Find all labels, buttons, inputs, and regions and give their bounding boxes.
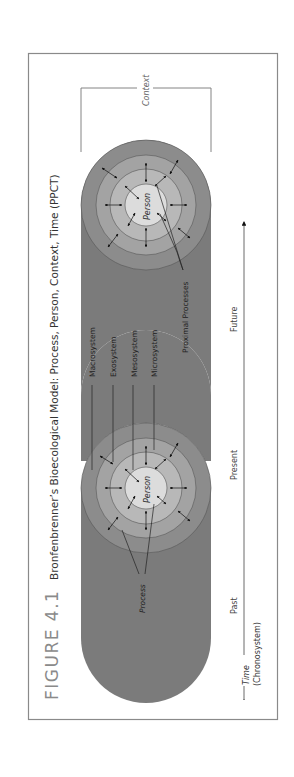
context-label: Context xyxy=(142,74,151,106)
bioecological-model-figure: FIGURE 4.1 Bronfenbrenner’s Bioecologica… xyxy=(0,0,294,777)
figure-label: FIGURE 4.1 xyxy=(42,590,62,700)
chronosystem-label: (Chronosystem) xyxy=(253,622,262,686)
time-point-present: Present xyxy=(230,450,239,480)
proximal-processes-label: Proximal Processes xyxy=(181,281,190,353)
person-label-future: Person xyxy=(143,193,152,220)
system-label-exosystem: Exosystem xyxy=(109,336,118,377)
system-label-macrosystem: Macrosystem xyxy=(88,327,97,377)
figure-title: Bronfenbrenner’s Bioecological Model: Pr… xyxy=(48,174,60,580)
system-label-microsystem: Microsystem xyxy=(150,330,159,377)
time-point-future: Future xyxy=(230,306,239,332)
person-label-present: Person xyxy=(143,476,152,503)
time-label: Time xyxy=(242,665,251,685)
system-label-mesosystem: Mesosystem xyxy=(130,330,139,377)
process-label: Process xyxy=(138,584,147,613)
time-point-past: Past xyxy=(230,597,239,614)
